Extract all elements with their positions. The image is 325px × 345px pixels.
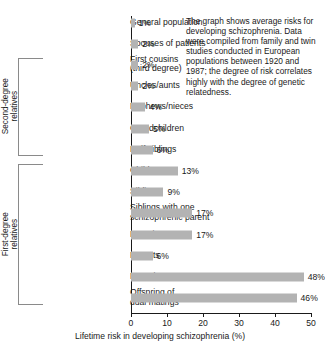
x-axis-line xyxy=(131,313,312,314)
x-axis-tick-label: 50 xyxy=(306,318,316,328)
bar xyxy=(131,103,145,112)
x-axis-label: Lifetime risk in developing schizophreni… xyxy=(0,331,320,341)
bar-row: Half siblings6% xyxy=(0,143,320,156)
x-axis-tick xyxy=(167,313,168,317)
bar-row: Nephews/nieces4% xyxy=(0,101,320,114)
x-axis-tick-label: 30 xyxy=(234,318,244,328)
bar xyxy=(131,145,153,154)
bar-row: MZ twins48% xyxy=(0,270,320,283)
bar xyxy=(131,251,153,260)
bar-row: Uncles/aunts2% xyxy=(0,80,320,93)
bar xyxy=(131,39,138,48)
bar xyxy=(131,18,135,27)
bar-row: General population1% xyxy=(0,16,320,29)
bar-row: Siblings9% xyxy=(0,186,320,199)
bar xyxy=(131,124,149,133)
bar xyxy=(131,209,192,218)
group-bracket-label-line: relatives xyxy=(10,164,19,304)
group-bracket-label: First-degreerelatives xyxy=(1,164,19,304)
bar-value-label: 13% xyxy=(182,166,199,176)
bar-row: DZ twins17% xyxy=(0,228,320,241)
bar-row: Parents6% xyxy=(0,249,320,262)
group-bracket-label: Second-degreerelatives xyxy=(1,58,19,156)
bar xyxy=(131,188,163,197)
bar xyxy=(131,294,297,303)
bar-value-label: 2% xyxy=(142,81,154,91)
bar-value-label: 9% xyxy=(167,187,179,197)
bar-value-label: 1% xyxy=(139,18,151,28)
bar xyxy=(131,60,138,69)
x-axis-tick xyxy=(131,313,132,317)
x-axis-tick xyxy=(203,313,204,317)
bar-value-label: 46% xyxy=(301,293,318,303)
x-axis-tick xyxy=(311,313,312,317)
bar-value-label: 5% xyxy=(153,124,165,134)
group-bracket-label-line: First-degree xyxy=(1,164,10,304)
bar-row: Children13% xyxy=(0,164,320,177)
bar-row: Offspring ofdual matings46% xyxy=(0,292,320,305)
bar-value-label: 6% xyxy=(157,145,169,155)
bar-row: First cousins(third degree)2% xyxy=(0,58,320,71)
x-axis-tick xyxy=(275,313,276,317)
group-bracket xyxy=(18,58,43,156)
bar-value-label: 17% xyxy=(196,230,213,240)
bar-value-label: 2% xyxy=(142,39,154,49)
bar-value-label: 6% xyxy=(157,251,169,261)
bar xyxy=(131,166,178,175)
bar xyxy=(131,82,138,91)
group-bracket-label-line: Second-degree xyxy=(1,58,10,156)
bar-row: Grandchildren5% xyxy=(0,122,320,135)
bar-value-label: 2% xyxy=(142,60,154,70)
bar-row: Siblings with oneschizophrenic parent17% xyxy=(0,207,320,220)
bar-value-label: 4% xyxy=(149,102,161,112)
bar xyxy=(131,230,192,239)
group-bracket-label-line: relatives xyxy=(10,58,19,156)
bar-row: Spouses of patients2% xyxy=(0,37,320,50)
x-axis-tick-label: 0 xyxy=(129,318,134,328)
x-axis-tick-label: 40 xyxy=(270,318,280,328)
x-axis-tick xyxy=(239,313,240,317)
x-axis-tick-label: 10 xyxy=(162,318,172,328)
bar xyxy=(131,272,304,281)
x-axis-tick-label: 20 xyxy=(198,318,208,328)
group-bracket xyxy=(18,164,43,304)
bar-value-label: 17% xyxy=(196,208,213,218)
bar-value-label: 48% xyxy=(308,272,325,282)
